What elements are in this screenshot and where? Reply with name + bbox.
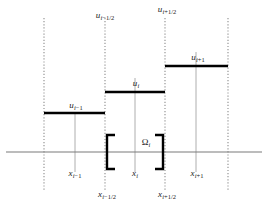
label-u-i: ui (133, 79, 140, 89)
label-u-i-minus-1: ui−1 (69, 101, 82, 111)
label-x-i-plus-1: xi+1 (191, 169, 204, 179)
label-x-i-minus-half: xi−1/2 (98, 190, 116, 200)
label-u-i-plus-half: ui+1/2 (158, 5, 177, 15)
label-x-i-minus-1: xi−1 (69, 169, 82, 179)
label-u-i-plus-1: ui+1 (191, 53, 204, 63)
diagram-canvas (0, 0, 269, 212)
label-omega-i: Ωi (142, 138, 151, 148)
finite-volume-diagram: ui−1/2 ui+1/2 ui−1 ui ui+1 Ωi xi−1 xi xi… (0, 0, 269, 212)
label-u-i-minus-half: ui−1/2 (96, 11, 115, 21)
label-x-i: xi (132, 169, 138, 179)
label-x-i-plus-half: xi+1/2 (158, 190, 176, 200)
